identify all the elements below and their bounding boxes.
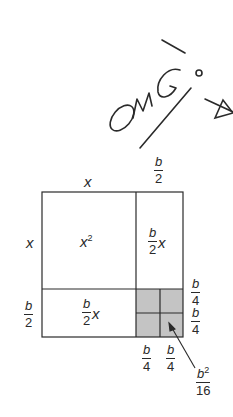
star-doodle-icon	[205, 99, 233, 118]
corner-bottom-label-1: b 4	[142, 343, 151, 373]
handwritten-omg	[105, 40, 202, 148]
diagram-canvas	[0, 0, 233, 417]
region-x-squared: x2	[80, 234, 93, 249]
side-label-b-over-2: b 2	[24, 299, 33, 329]
corner-right-label-1: b 4	[191, 277, 200, 307]
region-bottom-rect-label: b 2 x	[82, 297, 100, 327]
corner-right-label-2: b 4	[191, 306, 200, 336]
side-label-x: x	[26, 235, 34, 250]
top-label-b-over-2: b 2	[154, 155, 163, 185]
region-right-rect-label: b 2 x	[148, 226, 166, 256]
callout-b-squared-over-16: b2 16	[196, 366, 210, 397]
top-label-x: x	[84, 174, 92, 189]
corner-bottom-label-2: b 4	[166, 343, 175, 373]
